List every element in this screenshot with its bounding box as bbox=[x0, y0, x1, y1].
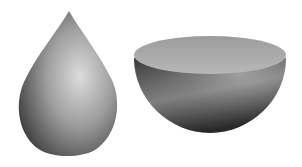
hemisphere-shape bbox=[134, 36, 286, 133]
teardrop-shape bbox=[19, 11, 117, 156]
hemisphere-top-face bbox=[134, 36, 286, 74]
shapes-figure bbox=[0, 0, 302, 167]
